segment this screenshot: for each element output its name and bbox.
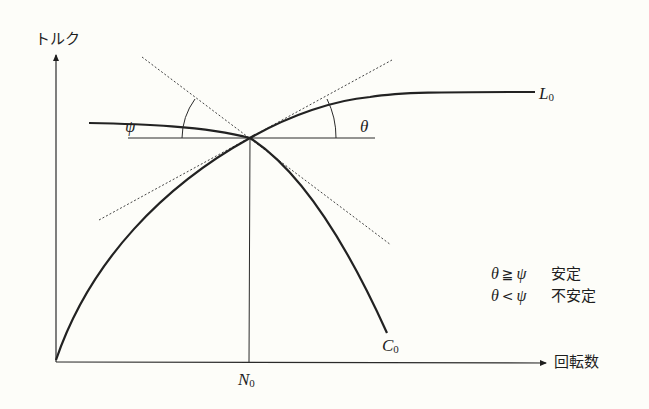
x-axis xyxy=(56,362,546,363)
torque-speed-diagram xyxy=(0,0,649,409)
legend-condition: θ<ψ xyxy=(491,287,551,305)
psi-angle-arc xyxy=(182,99,195,138)
legend-theta: θ xyxy=(491,287,499,304)
l0-label: L0 xyxy=(539,85,554,103)
n0-vertical-line xyxy=(249,138,250,362)
theta-symbol: θ xyxy=(360,118,368,135)
n0-label-sub: 0 xyxy=(249,377,255,389)
l0-label-sub: 0 xyxy=(548,91,554,103)
psi-symbol: ψ xyxy=(125,118,136,135)
c0-label-main: C xyxy=(382,336,393,355)
c0-curve xyxy=(56,138,387,360)
legend-psi: ψ xyxy=(517,287,527,304)
l0-curve xyxy=(89,92,535,138)
legend-psi: ψ xyxy=(517,265,527,282)
legend-row-unstable: θ<ψ 不安定 xyxy=(491,284,596,306)
n0-label: N0 xyxy=(238,371,255,389)
n0-label-main: N xyxy=(238,370,249,389)
c0-label-sub: 0 xyxy=(393,343,399,355)
legend-theta: θ xyxy=(491,265,499,282)
legend-text-stable: 安定 xyxy=(551,262,581,283)
legend-condition: θ≧ψ xyxy=(491,265,551,283)
c0-label: C0 xyxy=(382,337,399,355)
y-axis-label: トルク xyxy=(35,32,80,47)
legend-text-unstable: 不安定 xyxy=(551,284,596,305)
x-axis-label: 回転数 xyxy=(554,355,599,370)
legend-operator: ≧ xyxy=(499,266,517,282)
legend-row-stable: θ≧ψ 安定 xyxy=(491,262,596,284)
legend-operator: < xyxy=(499,288,517,304)
stability-legend: θ≧ψ 安定 θ<ψ 不安定 xyxy=(491,262,596,306)
